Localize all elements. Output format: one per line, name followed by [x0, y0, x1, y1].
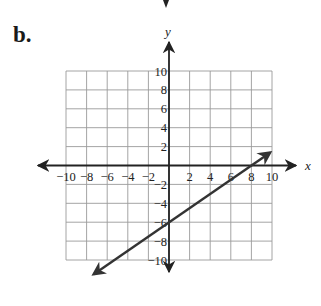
svg-text:−8: −8	[154, 235, 167, 249]
previous-figure-arrow-icon	[163, 0, 169, 8]
svg-text:x: x	[304, 158, 311, 173]
svg-text:2: 2	[161, 140, 167, 154]
svg-text:−2: −2	[154, 178, 167, 192]
svg-text:y: y	[163, 24, 171, 39]
svg-text:−10: −10	[56, 170, 76, 184]
svg-text:−10: −10	[147, 254, 167, 268]
svg-text:10: 10	[155, 65, 168, 79]
coordinate-graph: xy −10−8−6−4−2246810108642−2−4−6−8−10	[0, 0, 321, 306]
svg-text:4: 4	[161, 121, 168, 135]
svg-text:−4: −4	[121, 170, 135, 184]
svg-text:10: 10	[266, 170, 279, 184]
svg-text:8: 8	[248, 170, 254, 184]
svg-text:−8: −8	[80, 170, 93, 184]
svg-text:−6: −6	[101, 170, 114, 184]
svg-text:2: 2	[186, 170, 192, 184]
svg-text:−4: −4	[154, 197, 168, 211]
svg-text:8: 8	[161, 83, 167, 97]
svg-text:6: 6	[161, 102, 167, 116]
axes: xy	[38, 24, 311, 272]
svg-text:4: 4	[207, 170, 214, 184]
